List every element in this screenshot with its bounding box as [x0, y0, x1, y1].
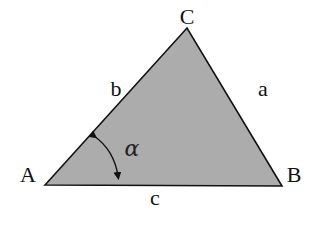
triangle-abc [45, 28, 282, 186]
vertex-label-b: B [287, 162, 302, 187]
side-label-a: a [258, 76, 268, 101]
vertex-label-c: C [180, 4, 195, 29]
angle-label-alpha: α [125, 136, 140, 161]
side-label-c: c [150, 185, 160, 210]
side-label-b: b [111, 76, 122, 101]
vertex-label-a: A [20, 162, 36, 187]
triangle-diagram: C A B b a c α [0, 0, 319, 225]
